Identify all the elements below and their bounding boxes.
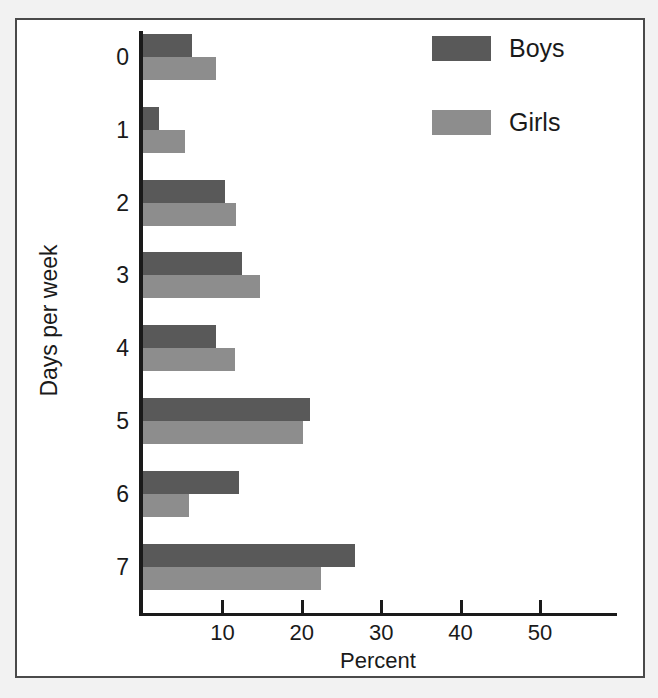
- x-tick-50: [539, 600, 542, 613]
- y-tick-label-4: 4: [95, 335, 129, 362]
- x-tick-label-50: 50: [528, 620, 552, 646]
- x-tick-label-20: 20: [290, 620, 314, 646]
- x-axis-title: Percent: [139, 648, 617, 674]
- bar-boys-5: [142, 398, 310, 421]
- bar-girls-1: [142, 130, 185, 153]
- y-tick-label-1: 1: [95, 116, 129, 143]
- plot-area: 1020304050 01234567 Percent Days per wee…: [17, 20, 643, 676]
- bar-girls-0: [142, 57, 216, 80]
- x-tick-30: [380, 600, 383, 613]
- y-tick-label-7: 7: [95, 553, 129, 580]
- x-tick-label-30: 30: [369, 620, 393, 646]
- bar-girls-2: [142, 203, 236, 226]
- y-tick-label-2: 2: [95, 189, 129, 216]
- bar-boys-3: [142, 252, 242, 275]
- bar-girls-4: [142, 348, 235, 371]
- legend-swatch-girls: [432, 110, 491, 135]
- bar-boys-6: [142, 471, 239, 494]
- x-axis-line: [139, 613, 617, 616]
- bar-boys-0: [142, 34, 192, 57]
- bar-boys-4: [142, 325, 216, 348]
- bar-boys-2: [142, 180, 225, 203]
- y-tick-label-3: 3: [95, 262, 129, 289]
- x-tick-20: [301, 600, 304, 613]
- x-tick-label-40: 40: [448, 620, 472, 646]
- legend-item-boys: Boys: [432, 34, 565, 63]
- x-tick-40: [460, 600, 463, 613]
- bar-boys-7: [142, 544, 355, 567]
- y-axis-title: Days per week: [36, 211, 63, 431]
- legend-label-girls: Girls: [509, 108, 560, 137]
- legend-label-boys: Boys: [509, 34, 565, 63]
- bar-girls-6: [142, 494, 189, 517]
- y-tick-label-0: 0: [95, 44, 129, 71]
- y-tick-label-5: 5: [95, 408, 129, 435]
- y-tick-label-6: 6: [95, 480, 129, 507]
- x-tick-label-10: 10: [210, 620, 234, 646]
- bar-boys-1: [142, 107, 159, 130]
- legend-swatch-boys: [432, 36, 491, 61]
- bar-girls-7: [142, 567, 321, 590]
- page-background: (title cropped at top edge) 1020304050 0…: [0, 0, 658, 698]
- x-tick-10: [221, 600, 224, 613]
- figure-frame: 1020304050 01234567 Percent Days per wee…: [15, 18, 645, 678]
- bar-girls-5: [142, 421, 303, 444]
- y-axis-line: [139, 31, 143, 615]
- bar-girls-3: [142, 275, 260, 298]
- legend-item-girls: Girls: [432, 108, 560, 137]
